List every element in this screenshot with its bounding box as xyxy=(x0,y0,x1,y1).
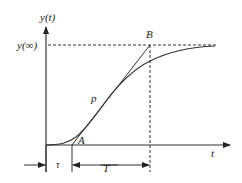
step-response-diagram: y(t) y(∞) B p A τ T t xyxy=(0,0,242,183)
tau-label: τ xyxy=(56,159,60,170)
y-infinity-label: y(∞) xyxy=(16,39,37,52)
response-curve xyxy=(46,46,215,145)
point-b-label: B xyxy=(146,28,153,40)
point-a-label: A xyxy=(77,134,85,146)
T-label: T xyxy=(103,162,110,174)
point-p-label: p xyxy=(90,92,97,104)
y-axis-label: y(t) xyxy=(39,11,56,24)
t-axis-label: t xyxy=(211,147,215,159)
